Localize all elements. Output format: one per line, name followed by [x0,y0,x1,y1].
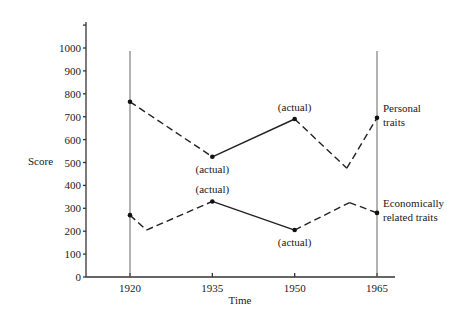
line-segment-dashed [347,118,377,168]
y-tick-label: 800 [65,88,82,100]
labels-group: (actual)(actual)Personaltraits(actual)(a… [196,101,445,249]
line-segment-dashed [295,203,350,230]
line-segment-dashed [130,102,212,157]
y-tick-label: 0 [76,271,82,283]
series-label: Economically [383,197,445,209]
data-point [375,211,380,216]
data-point [128,213,133,218]
line-segment-solid [212,119,294,157]
line-segment-dashed [146,201,212,230]
data-point [292,117,297,122]
line-chart: 0100200300400500600700800900100019201935… [0,0,466,317]
actual-annotation: (actual) [278,236,312,249]
data-point [375,116,380,121]
series-label: Personal [383,102,421,114]
actual-annotation: (actual) [278,101,312,114]
y-tick-label: 600 [65,134,82,146]
y-tick-label: 1000 [59,42,82,54]
data-point [210,199,215,204]
series-label: related traits [383,211,438,223]
y-tick-label: 100 [65,248,82,260]
series-personal-traits [128,100,380,169]
line-segment-dashed [350,203,377,213]
y-tick-label: 200 [65,225,82,237]
axes: 0100200300400500600700800900100019201935… [59,22,395,294]
x-tick-label: 1950 [284,282,307,294]
data-point [128,100,133,105]
line-segment-dashed [295,119,347,168]
data-point [210,154,215,159]
actual-annotation: (actual) [196,183,230,196]
y-tick-label: 500 [65,157,82,169]
series-group [128,100,380,233]
actual-annotation: (actual) [196,163,230,176]
x-tick-label: 1935 [201,282,224,294]
x-tick-label: 1920 [119,282,142,294]
line-segment-dashed [130,215,146,230]
data-point [292,228,297,233]
x-axis-label: Time [229,294,252,306]
y-tick-label: 900 [65,65,82,77]
y-tick-label: 300 [65,202,82,214]
line-segment-solid [212,201,294,230]
y-axis-label: Score [28,155,53,167]
series-economically-related-traits [128,199,380,232]
y-tick-label: 700 [65,111,82,123]
y-tick-label: 400 [65,179,82,191]
x-tick-label: 1965 [366,282,389,294]
series-label: traits [383,116,405,128]
reference-lines [130,51,377,277]
